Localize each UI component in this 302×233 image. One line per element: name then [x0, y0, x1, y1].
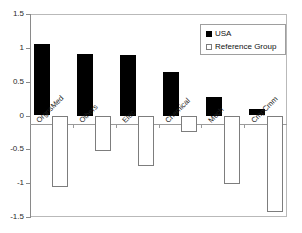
y-tick-mark [26, 14, 31, 15]
y-tick-label: 1.5 [0, 10, 24, 18]
zero-baseline [30, 124, 287, 125]
y-tick-label: -1 [0, 179, 24, 187]
legend-label-usa: USA [215, 29, 231, 38]
y-tick-label: -1.5 [0, 213, 24, 221]
legend-swatch-hollow-square-icon [206, 44, 212, 50]
bar-reference-mech [224, 116, 240, 184]
y-tick-mark [26, 48, 31, 49]
y-tick-mark [26, 116, 31, 117]
y-tick-label: 0.5 [0, 78, 24, 86]
bar-reference-others [95, 116, 111, 151]
bar-reference-orgnsmed [52, 116, 68, 187]
y-tick-label: -0.5 [0, 145, 24, 153]
y-tick-label: 1 [0, 44, 24, 52]
bar-usa-elec [120, 55, 136, 116]
bar-reference-chemical [181, 116, 197, 132]
legend-label-reference-group: Reference Group [215, 42, 276, 51]
y-tick-mark [26, 183, 31, 184]
legend: USA Reference Group [200, 24, 286, 55]
y-tick-label: 0 [0, 112, 24, 120]
bar-chart: 1.510.50-0.5-1-1.5 OrgnsMedOthersElecChe… [0, 0, 302, 233]
y-tick-mark [26, 82, 31, 83]
legend-item-usa: USA [206, 28, 231, 39]
y-tick-mark [26, 217, 31, 218]
bar-reference-elec [138, 116, 154, 166]
y-tick-mark [26, 149, 31, 150]
legend-swatch-filled-square-icon [206, 31, 212, 37]
bar-reference-cmpcmm [267, 116, 283, 212]
legend-item-reference-group: Reference Group [206, 41, 276, 52]
